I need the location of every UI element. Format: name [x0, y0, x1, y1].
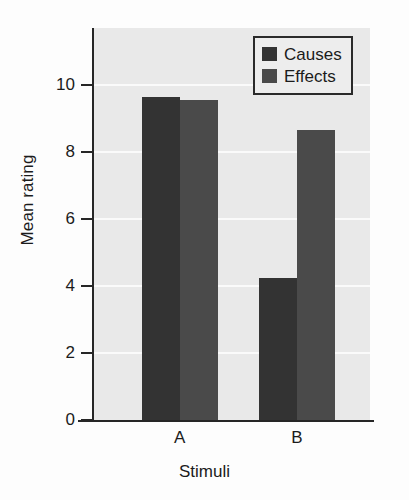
y-tick-label: 6	[35, 209, 75, 229]
legend-swatch-icon	[262, 69, 277, 83]
bar-b-causes	[259, 278, 297, 420]
bar-a-effects	[180, 100, 218, 420]
y-tick-label: 10	[35, 75, 75, 95]
y-tick-mark	[81, 285, 93, 287]
y-tick-mark	[81, 218, 93, 220]
bar-b-effects	[297, 130, 335, 420]
y-axis-line	[92, 28, 94, 421]
chart-legend: CausesEffects	[253, 36, 353, 95]
y-tick-mark	[81, 84, 93, 86]
legend-item-causes: Causes	[262, 43, 342, 65]
bar-chart-figure: Mean rating 0246810 AB Stimuli CausesEff…	[0, 0, 409, 500]
x-tick-label-b: B	[267, 428, 327, 448]
y-tick-label: 0	[35, 410, 75, 430]
legend-item-effects: Effects	[262, 65, 342, 87]
y-tick-label: 2	[35, 343, 75, 363]
y-tick-label: 4	[35, 276, 75, 296]
y-tick-mark	[81, 419, 93, 421]
legend-label: Effects	[284, 68, 336, 85]
legend-swatch-icon	[262, 47, 277, 61]
y-tick-mark	[81, 151, 93, 153]
x-axis-title: Stimuli	[0, 462, 409, 482]
x-axis-line	[78, 420, 374, 422]
y-tick-mark	[81, 352, 93, 354]
bar-a-causes	[142, 97, 180, 420]
y-tick-label: 8	[35, 142, 75, 162]
x-tick-label-a: A	[150, 428, 210, 448]
legend-label: Causes	[284, 46, 342, 63]
